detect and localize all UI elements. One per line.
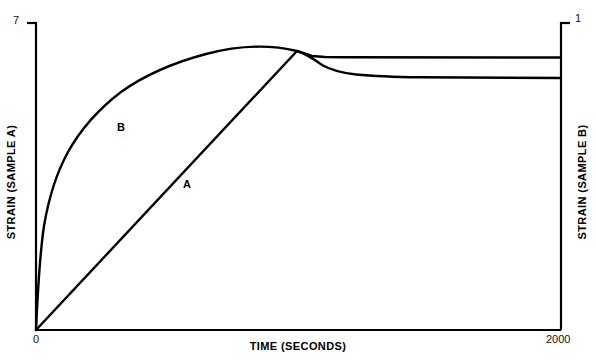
chart-plot-svg xyxy=(0,0,596,360)
chart-figure: 7 1 0 2000 TIME (SECONDS) STRAIN (SAMPLE… xyxy=(0,0,596,360)
y-axis-left-tick-label-max: 7 xyxy=(13,14,19,26)
series-label-b: B xyxy=(117,121,125,133)
x-axis-title: TIME (SECONDS) xyxy=(0,340,596,352)
y-axis-right-tick-label-max: 1 xyxy=(575,12,581,24)
series-label-a: A xyxy=(183,178,191,190)
y-axis-left-title: STRAIN (SAMPLE A) xyxy=(5,107,17,257)
y-axis-right-title: STRAIN (SAMPLE B) xyxy=(576,107,588,257)
plot-background xyxy=(0,0,596,360)
